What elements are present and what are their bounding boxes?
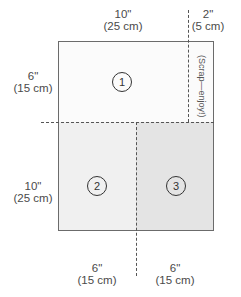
piece-1-marker: 1 [112,72,132,92]
cut-line-horizontal [41,122,214,123]
dim-bottom-left: 6" (15 cm) [74,262,120,286]
cut-line-vertical [136,122,137,276]
dim-top-scrap-imperial: 2" [190,8,226,20]
cut-line-scrap [188,10,189,122]
dim-bottom-left-imperial: 6" [74,262,120,274]
piece-2-marker: 2 [87,176,107,196]
dim-left-bottom-metric: (25 cm) [10,192,56,204]
dim-bottom-right: 6" (15 cm) [152,262,198,286]
dim-bottom-right-metric: (15 cm) [152,274,198,286]
dim-bottom-right-imperial: 6" [152,262,198,274]
dim-left-top-imperial: 6" [10,70,56,82]
dim-left-bottom: 10" (25 cm) [10,180,56,204]
dim-top-main-imperial: 10" [98,8,148,20]
dim-top-main: 10" (25 cm) [98,8,148,32]
dim-top-main-metric: (25 cm) [98,20,148,32]
dim-left-top-metric: (15 cm) [10,82,56,94]
scrap-label: (Scrap—enjoy!) [197,55,207,118]
dim-left-bottom-imperial: 10" [10,180,56,192]
piece-3-marker: 3 [166,176,186,196]
dim-top-scrap-metric: (5 cm) [190,20,226,32]
dim-left-top: 6" (15 cm) [10,70,56,94]
dim-top-scrap: 2" (5 cm) [190,8,226,32]
dim-bottom-left-metric: (15 cm) [74,274,120,286]
